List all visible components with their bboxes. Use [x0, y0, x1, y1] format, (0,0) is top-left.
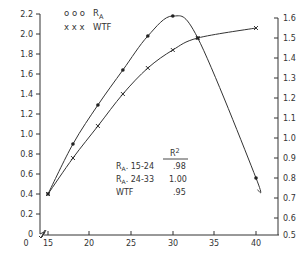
- right-tick-label: 1.4: [283, 54, 296, 63]
- wtf-data-point: [71, 156, 75, 160]
- ra-data-point: [121, 68, 125, 72]
- right-tick-label: 0.5: [283, 231, 296, 240]
- x-axis-labels: 0 15 20 25 30 35 40: [23, 239, 261, 248]
- x-origin-label: 0: [23, 239, 28, 248]
- left-tick-label: 1.0: [20, 130, 33, 139]
- left-tick-label: 1.6: [20, 70, 33, 79]
- ra-series-line: [48, 16, 261, 194]
- x-tick-label: 35: [209, 239, 219, 248]
- legend-ra-label: RA: [93, 8, 104, 21]
- wtf-data-point: [96, 124, 100, 128]
- left-axis: [36, 14, 40, 234]
- right-axis: [274, 18, 278, 235]
- right-tick-label: 1.3: [283, 74, 296, 83]
- ra-data-point: [171, 14, 175, 18]
- table-row-value: 1.00: [169, 175, 187, 184]
- left-tick-label: 0.8: [20, 150, 33, 159]
- r-squared-table: R2 RA. 15-24 .98 RA. 24-33 1.00 WTF .95: [116, 147, 188, 197]
- left-axis-labels: 0 0.2 0.4 0.6 0.8 1.0 1.2 1.4 1.6 1.8 2.…: [20, 10, 33, 239]
- x-tick-label: 25: [126, 239, 136, 248]
- x-tick-label: 30: [168, 239, 178, 248]
- right-tick-label: 1.5: [283, 34, 296, 43]
- x-tick-label: 15: [43, 239, 53, 248]
- table-row-value: .95: [173, 188, 186, 197]
- left-tick-label: 0.4: [20, 190, 33, 199]
- left-tick-label: 2.2: [20, 10, 33, 19]
- table-row-label: WTF: [116, 188, 134, 197]
- table-row-label: RA. 15-24: [116, 162, 154, 172]
- left-tick-label: 1.2: [20, 110, 33, 119]
- ra-data-point: [254, 176, 258, 180]
- legend-wtf-markers: x x x: [64, 22, 85, 32]
- x-tick-label: 20: [84, 239, 94, 248]
- ra-data-point: [96, 103, 100, 107]
- right-tick-label: 0.8: [283, 174, 296, 183]
- left-tick-label: 1.4: [20, 90, 33, 99]
- right-tick-label: 0.9: [283, 154, 296, 163]
- x-tick-label: 40: [251, 239, 261, 248]
- x-axis: [39, 230, 279, 238]
- chart-canvas: 0 0.2 0.4 0.6 0.8 1.0 1.2 1.4 1.6 1.8 2.…: [0, 0, 304, 261]
- right-tick-label: 1.2: [283, 94, 296, 103]
- right-tick-label: 1.1: [283, 114, 296, 123]
- table-row-label: RA. 24-33: [116, 175, 154, 185]
- right-tick-label: 0.7: [283, 194, 296, 203]
- left-tick-label: 2.0: [20, 30, 33, 39]
- ra-data-point: [71, 142, 75, 146]
- legend: o o o RA x x x WTF: [64, 8, 112, 32]
- legend-ra-markers: o o o: [64, 8, 85, 18]
- right-tick-label: 1.6: [283, 14, 296, 23]
- right-axis-labels: 0.5 0.6 0.7 0.8 0.9 1.0 1.1 1.2 1.3 1.4 …: [283, 14, 296, 240]
- table-row-value: .98: [173, 162, 186, 171]
- left-tick-label: 0.2: [20, 210, 33, 219]
- table-header: R2: [170, 147, 180, 158]
- wtf-data-point: [146, 66, 150, 70]
- wtf-data-point: [171, 48, 175, 52]
- right-tick-label: 0.6: [283, 214, 296, 223]
- ra-data-point: [146, 34, 150, 38]
- left-tick-label: 0: [28, 230, 33, 239]
- left-tick-label: 1.8: [20, 50, 33, 59]
- right-tick-label: 1.0: [283, 134, 296, 143]
- left-tick-label: 0.6: [20, 170, 33, 179]
- wtf-data-point: [121, 92, 125, 96]
- legend-wtf-label: WTF: [93, 22, 112, 32]
